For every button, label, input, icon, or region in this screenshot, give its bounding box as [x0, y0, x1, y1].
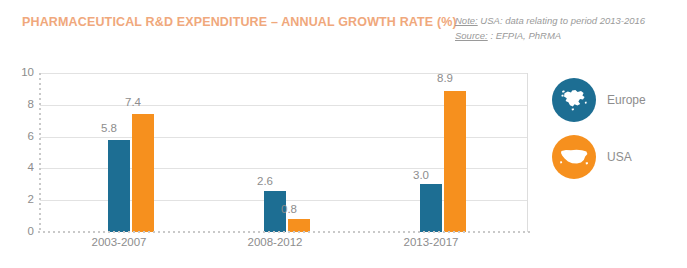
bar-europe-2013-2017[interactable] — [420, 184, 442, 232]
value-label-usa-2013-2017: 8.9 — [425, 72, 465, 84]
bar-europe-2003-2007[interactable] — [108, 140, 130, 232]
note-source-block: Note: USA: data relating to period 2013-… — [455, 13, 687, 43]
bar-usa-2013-2017[interactable] — [444, 91, 466, 233]
x-tick-2003-2007: 2003-2007 — [59, 236, 179, 248]
x-tick-2008-2012: 2008-2012 — [215, 236, 335, 248]
value-label-europe-2013-2017: 3.0 — [401, 169, 441, 181]
note-text: USA: data relating to period 2013-2016 — [478, 15, 645, 26]
europe-map-icon — [552, 78, 596, 122]
y-tick-0: 0 — [8, 225, 34, 237]
x-tick-2013-2017: 2013-2017 — [371, 236, 491, 248]
value-label-europe-2003-2007: 5.8 — [89, 122, 129, 134]
y-tick-10: 10 — [8, 66, 34, 78]
legend-item-usa[interactable]: USA — [552, 135, 632, 179]
y-axis-line — [39, 73, 41, 233]
usa-map-icon — [552, 135, 596, 179]
chart-figure: PHARMACEUTICAL R&D EXPENDITURE – ANNUAL … — [0, 0, 687, 268]
y-tick-2: 2 — [8, 193, 34, 205]
value-label-usa-2008-2012: 0.8 — [269, 203, 309, 215]
y-axis: 10 8 6 4 2 0 — [6, 73, 34, 232]
y-tick-8: 8 — [8, 98, 34, 110]
legend-item-europe[interactable]: Europe — [552, 78, 646, 122]
value-label-usa-2003-2007: 7.4 — [113, 96, 153, 108]
note-line: Note: USA: data relating to period 2013-… — [455, 13, 687, 28]
legend-label-europe: Europe — [607, 93, 646, 107]
y-tick-6: 6 — [8, 130, 34, 142]
note-label: Note: — [455, 15, 478, 26]
source-text: : EFPIA, PhRMA — [488, 30, 561, 41]
bar-usa-2003-2007[interactable] — [132, 114, 154, 232]
y-tick-4: 4 — [8, 161, 34, 173]
value-label-europe-2008-2012: 2.6 — [245, 175, 285, 187]
chart-title: PHARMACEUTICAL R&D EXPENDITURE – ANNUAL … — [22, 15, 457, 29]
source-line: Source: : EFPIA, PhRMA — [455, 28, 687, 43]
legend-label-usa: USA — [607, 150, 632, 164]
source-label: Source: — [455, 30, 488, 41]
x-axis-line — [38, 231, 530, 233]
